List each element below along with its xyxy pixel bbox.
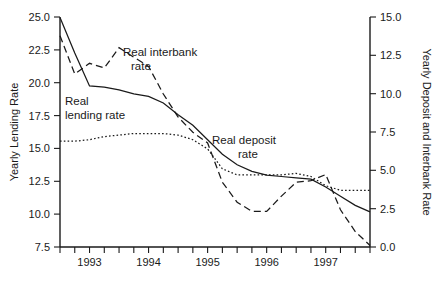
left-tick-label: 12.5	[29, 175, 50, 187]
x-tick-label: 1994	[136, 256, 160, 268]
left-tick-label: 15.0	[29, 142, 50, 154]
left-tick-label: 25.0	[29, 11, 50, 23]
x-axis-ticks	[60, 247, 370, 253]
annotation-line: lending rate	[65, 109, 125, 121]
left-tick-label: 22.5	[29, 44, 50, 56]
right-tick-label: 5.0	[380, 164, 395, 176]
right-tick-label: 15.0	[380, 11, 401, 23]
right-tick-label: 0.0	[380, 241, 395, 253]
x-axis-tick-labels: 1993 1994 1995 1996 1997	[77, 256, 338, 268]
right-axis-tick-labels: 15.0 12.5 10.0 7.5 5.0 2.5 0.0	[380, 11, 401, 253]
right-tick-label: 10.0	[380, 88, 401, 100]
right-tick-label: 2.5	[380, 203, 395, 215]
left-tick-label: 10.0	[29, 208, 50, 220]
x-tick-label: 1996	[254, 256, 278, 268]
right-tick-label: 7.5	[380, 126, 395, 138]
left-axis-tick-labels: 25.0 22.5 20.0 17.5 15.0 12.5 10.0 7.5	[29, 11, 50, 253]
left-tick-label: 7.5	[35, 241, 50, 253]
left-tick-label: 17.5	[29, 110, 50, 122]
x-tick-label: 1993	[77, 256, 101, 268]
right-tick-label: 12.5	[380, 49, 401, 61]
annotation-line: Real	[65, 95, 89, 107]
annotation-real-deposit-rate: Real deposit rate	[212, 134, 277, 160]
left-axis-ticks	[54, 17, 60, 247]
left-tick-label: 20.0	[29, 77, 50, 89]
annotation-line: Real deposit	[212, 134, 277, 146]
right-axis-title: Yearly Deposit and Interbank Rate	[421, 48, 433, 215]
chart-figure: 25.0 22.5 20.0 17.5 15.0 12.5 10.0 7.5 1…	[0, 0, 440, 284]
x-tick-label: 1997	[313, 256, 337, 268]
annotation-real-lending-rate: Real lending rate	[65, 95, 125, 121]
annotation-line: rate	[131, 60, 151, 72]
annotation-real-interbank-rate: Real interbank rate	[123, 46, 197, 72]
left-axis-title: Yearly Lending Rate	[8, 83, 20, 182]
annotation-line: rate	[238, 148, 258, 160]
interest-rates-line-chart: 25.0 22.5 20.0 17.5 15.0 12.5 10.0 7.5 1…	[0, 0, 440, 284]
annotation-line: Real interbank	[123, 46, 197, 58]
x-tick-label: 1995	[195, 256, 219, 268]
right-axis-ticks	[370, 17, 376, 247]
